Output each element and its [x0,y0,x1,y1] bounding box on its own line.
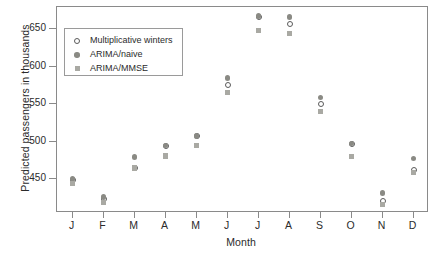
data-point [101,200,106,205]
chart-figure: Predicted passengers in thousands Month … [0,0,443,256]
x-axis-tick-label: A [279,219,299,231]
y-axis-tick [49,103,56,104]
data-point [287,14,293,20]
x-axis-tick [165,212,166,218]
x-axis-tick [413,212,414,218]
x-axis-tick-label: J [62,219,82,231]
x-axis-tick-label: J [217,219,237,231]
x-axis-title: Month [56,236,426,248]
y-axis-tick-label: 600 [12,61,46,71]
x-axis-tick [289,212,290,218]
x-axis-tick-label: F [93,219,113,231]
data-point [380,190,386,196]
x-axis-tick-label: J [248,219,268,231]
x-axis-tick-label: M [186,219,206,231]
data-point [194,143,199,148]
x-axis-tick [382,212,383,218]
x-axis-tick-label: O [341,219,361,231]
x-axis-tick [72,212,73,218]
x-axis-tick [103,212,104,218]
legend-marker-icon [74,38,80,44]
data-point [194,133,200,139]
data-point [318,95,324,101]
y-axis-tick-label: 500 [12,136,46,146]
data-point [380,202,385,207]
data-point [411,170,416,175]
data-point [256,28,261,33]
y-axis-tick-label: 450 [12,173,46,183]
legend-label: ARIMA/naive [90,48,143,61]
data-point [225,75,231,81]
x-axis-tick [320,212,321,218]
data-point [163,153,168,158]
data-point [411,156,417,162]
y-axis-tick [49,178,56,179]
legend-marker-icon [74,52,80,58]
chart-legend: Multiplicative wintersARIMA/naiveARIMA/M… [64,28,183,76]
x-axis-tick [227,212,228,218]
x-axis-tick [196,212,197,218]
y-axis-tick-label: 550 [12,98,46,108]
legend-label: Multiplicative winters [90,34,173,47]
x-axis-tick-label: N [372,219,392,231]
data-point [225,82,231,88]
y-axis-tick [49,66,56,67]
data-point [287,31,292,36]
x-axis-tick [258,212,259,218]
data-point [318,101,324,107]
x-axis-tick [134,212,135,218]
data-point [256,13,262,19]
data-point [318,109,323,114]
y-axis-tick-label: 650 [12,23,46,33]
data-point [132,165,137,170]
data-point [70,181,75,186]
x-axis-tick [351,212,352,218]
x-axis-tick-label: D [403,219,423,231]
y-axis-tick [49,28,56,29]
legend-marker-icon [75,66,80,71]
x-axis-tick-label: A [155,219,175,231]
x-axis-tick-label: M [124,219,144,231]
data-point [349,154,354,159]
data-point [132,154,138,160]
x-axis-tick-label: S [310,219,330,231]
legend-label: ARIMA/MMSE [90,62,148,75]
data-point [287,21,293,27]
y-axis-tick [49,141,56,142]
data-point [225,90,230,95]
